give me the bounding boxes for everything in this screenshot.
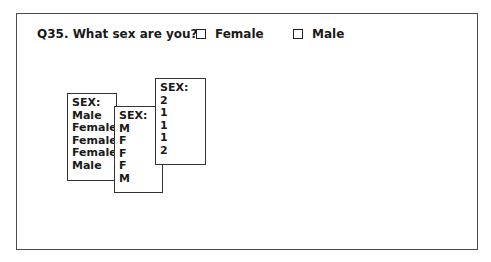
checkbox-male[interactable] [293,29,303,39]
card-value: 2 [160,145,205,158]
card-value: M [119,173,162,186]
card-value: 1 [160,132,205,145]
card-header: SEX: [72,97,116,110]
coding-card-words: SEX: Male Female Female Female Male [67,93,117,181]
card-value: Female [72,122,116,135]
coding-card-numbers: SEX: 2 1 1 1 2 [155,78,206,165]
question-label: Q35. What sex are you? [37,27,198,41]
checkbox-female[interactable] [196,29,206,39]
option-male[interactable]: Male [293,27,344,41]
option-male-label: Male [312,27,344,41]
card-value: Male [72,160,116,173]
card-value: 1 [160,107,205,120]
card-header: SEX: [160,82,205,95]
card-value: Female [72,147,116,160]
option-female-label: Female [215,27,264,41]
option-female[interactable]: Female [196,27,264,41]
